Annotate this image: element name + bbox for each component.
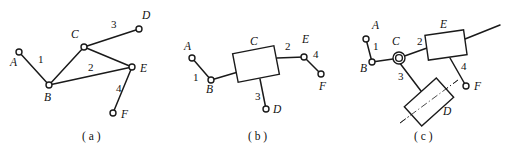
joint-e [301, 54, 307, 60]
figure-kinematic-chains: ABCDEF1234( a )CABDEF1234( b )EDABCF1234… [0, 0, 507, 151]
joint-label-b: B [360, 62, 367, 74]
block-e [425, 30, 467, 60]
joint-d [263, 106, 269, 112]
joint-label-a: A [9, 56, 18, 68]
joint-a [363, 36, 369, 42]
joint-f [110, 110, 116, 116]
link-segment-3 [260, 79, 266, 109]
joint-label-b: B [206, 83, 213, 95]
link-number-3: 3 [255, 90, 261, 102]
joint-b [46, 82, 52, 88]
panel-caption-b: ( b ) [248, 130, 267, 143]
link-number-4: 4 [116, 82, 122, 94]
link-number-3: 3 [111, 18, 117, 30]
joint-label-f: F [473, 80, 482, 92]
joint-f [463, 83, 469, 89]
link-number-3: 3 [398, 70, 404, 82]
link-segment-2 [277, 57, 304, 58]
joint-label-b: B [44, 91, 51, 103]
joint-label-c: C [71, 28, 79, 40]
joint-label-d: D [272, 103, 282, 115]
link-segment-1 [19, 52, 49, 85]
link-segment-3 [84, 29, 139, 47]
slider-block-d [404, 78, 453, 126]
panel-c: EDABCF1234( c ) [360, 18, 500, 143]
block-label-e: E [439, 18, 447, 30]
slider-label-d: D [442, 105, 452, 117]
block-c [233, 46, 280, 82]
joint-e [129, 64, 135, 70]
joint-label-e: E [301, 33, 309, 45]
link-number-2: 2 [285, 40, 291, 52]
joint-b [369, 59, 375, 65]
link-number-2: 2 [88, 61, 94, 73]
figure-canvas: ABCDEF1234( a )CABDEF1234( b )EDABCF1234… [0, 0, 507, 151]
link-number-1: 1 [373, 40, 379, 52]
joint-a [189, 55, 195, 61]
link-number-4: 4 [461, 60, 467, 72]
joint-label-d: D [141, 9, 151, 21]
panel-caption-a: ( a ) [82, 130, 101, 143]
joint-label-f: F [120, 108, 129, 120]
panel-b: CABDEF1234( b ) [183, 33, 327, 143]
link-segment-E-right-end [465, 25, 500, 39]
panel-a: ABCDEF1234( a ) [9, 9, 151, 143]
joint-label-c: C [392, 35, 400, 47]
joint-d [136, 26, 142, 32]
joint-label-e: E [139, 62, 147, 74]
joint-f [318, 71, 324, 77]
joint-a [16, 49, 22, 55]
link-segment-B-C [211, 72, 238, 80]
joint-label-f: F [318, 80, 327, 92]
link-number-1: 1 [38, 53, 44, 65]
block-label-c: C [250, 35, 258, 47]
panel-caption-c: ( c ) [414, 130, 433, 143]
joint-label-a: A [371, 19, 380, 31]
link-number-1: 1 [193, 71, 199, 83]
joint-c [396, 55, 403, 62]
joint-c [81, 44, 87, 50]
link-number-4: 4 [313, 48, 319, 60]
joint-label-a: A [183, 40, 192, 52]
link-number-2: 2 [417, 35, 423, 47]
